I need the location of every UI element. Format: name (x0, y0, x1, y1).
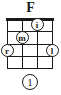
finger-marker-little[interactable]: l (46, 44, 59, 57)
fret-line-4 (7, 68, 53, 69)
fretboard-grid: i m r l (7, 18, 53, 69)
string-line-2 (22, 18, 23, 69)
chord-diagram: F i m r l 1 (0, 0, 61, 95)
finger-marker-index[interactable]: i (31, 18, 44, 31)
nut-line (6, 18, 54, 21)
fret-line-2 (7, 44, 53, 45)
finger-marker-middle[interactable]: m (16, 31, 29, 44)
fret-line-1 (7, 31, 53, 32)
chord-name-title: F (0, 0, 61, 16)
fret-line-3 (7, 56, 53, 57)
finger-marker-ring[interactable]: r (1, 44, 14, 57)
fret-position-marker: 1 (22, 74, 38, 90)
